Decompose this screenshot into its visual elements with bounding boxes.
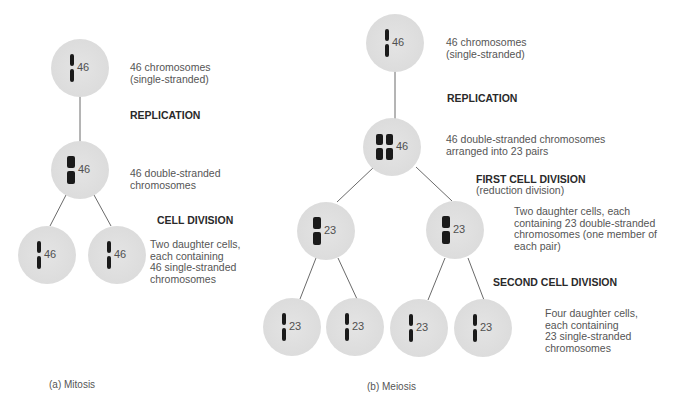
label-line: 46 double-stranded <box>130 168 221 180</box>
mitosis-replication-heading: REPLICATION <box>130 109 200 121</box>
label-line: (single-stranded) <box>130 74 211 86</box>
chromosome-pair-icon <box>375 134 395 160</box>
label-line: (single-stranded) <box>446 49 527 61</box>
chromosome-count: 46 <box>396 140 408 152</box>
label-line: Two daughter cells, each <box>514 206 657 218</box>
meiosis-first-division-line-right <box>416 167 452 201</box>
chromosome-count: 46 <box>392 36 404 48</box>
meiosis-second-division-heading: SECOND CELL DIVISION <box>493 276 617 288</box>
meiosis-paired-label: 46 double-stranded chromosomes arranged … <box>446 134 605 157</box>
label-line: chromosomes <box>150 274 240 286</box>
single-chromosome-icon <box>35 241 43 269</box>
meiosis-first-daughters-label: Two daughter cells, each containing 23 d… <box>514 206 657 252</box>
mitosis-parent-cell: 46 <box>51 39 109 97</box>
label-line: Two daughter cells, <box>150 239 240 251</box>
meiosis-second-division-line-4 <box>468 258 484 300</box>
label-line: chromosomes <box>545 343 638 355</box>
label-line: chromosomes (one member of <box>514 229 657 241</box>
meiosis-final-label: Four daughter cells, each containing 23 … <box>545 308 638 354</box>
label-line: chromosomes <box>130 180 221 192</box>
single-chromosome-icon <box>471 314 479 342</box>
meiosis-first-division-heading: FIRST CELL DIVISION (reduction division) <box>476 174 585 196</box>
mitosis-replicated-label: 46 double-stranded chromosomes <box>130 168 221 191</box>
chromosome-count: 23 <box>453 223 465 235</box>
single-chromosome-icon <box>280 313 288 341</box>
mitosis-daughter-cell-1: 46 <box>18 226 76 284</box>
mitosis-daughters-label: Two daughter cells, each containing 46 s… <box>150 239 240 285</box>
single-chromosome-icon <box>383 29 391 57</box>
heading-subtitle: (reduction division) <box>476 185 585 196</box>
double-chromosome-icon <box>312 217 322 245</box>
chromosome-count: 46 <box>44 248 56 260</box>
meiosis-second-division-line-2 <box>338 258 357 299</box>
mitosis-daughter-cell-2: 46 <box>88 226 146 284</box>
chromosome-count: 23 <box>289 320 301 332</box>
double-chromosome-icon <box>441 216 451 244</box>
mitosis-division-heading: CELL DIVISION <box>157 214 233 226</box>
meiosis-final-cell-3: 23 <box>390 299 448 357</box>
chromosome-count: 23 <box>480 321 492 333</box>
meiosis-first-daughter-2: 23 <box>426 201 484 259</box>
meiosis-first-division-line-left <box>337 167 374 202</box>
meiosis-paired-cell: 46 <box>363 118 421 176</box>
mitosis-caption: (a) Mitosis <box>49 379 95 390</box>
meiosis-final-cell-4: 23 <box>454 299 512 357</box>
chromosome-count: 46 <box>78 163 90 175</box>
single-chromosome-icon <box>105 241 113 269</box>
chromosome-count: 46 <box>77 61 89 73</box>
double-chromosome-icon <box>66 156 76 184</box>
meiosis-parent-cell: 46 <box>366 14 424 72</box>
label-line: 46 chromosomes <box>446 37 527 49</box>
label-line: 46 double-stranded chromosomes <box>446 134 605 146</box>
mitosis-start-label: 46 chromosomes (single-stranded) <box>130 62 211 85</box>
single-chromosome-icon <box>68 54 76 82</box>
mitosis-replicated-cell: 46 <box>51 141 109 199</box>
meiosis-replication-heading: REPLICATION <box>447 92 517 104</box>
meiosis-caption: (b) Meiosis <box>367 381 416 392</box>
single-chromosome-icon <box>343 313 351 341</box>
chromosome-count: 23 <box>416 321 428 333</box>
meiosis-second-division-line-1 <box>300 258 316 299</box>
single-chromosome-icon <box>407 314 415 342</box>
chromosome-count: 23 <box>324 224 336 236</box>
meiosis-first-daughter-1: 23 <box>297 202 355 260</box>
meiosis-second-division-line-3 <box>428 258 445 300</box>
chromosome-count: 23 <box>352 320 364 332</box>
mitosis-division-line-right <box>94 195 111 226</box>
mitosis-division-line-left <box>50 195 66 226</box>
label-line: 46 single-stranded <box>150 262 240 274</box>
meiosis-final-cell-1: 23 <box>263 298 321 356</box>
label-line: Four daughter cells, <box>545 308 638 320</box>
meiosis-start-label: 46 chromosomes (single-stranded) <box>446 37 527 60</box>
label-line: 46 chromosomes <box>130 62 211 74</box>
label-line: each pair) <box>514 241 657 253</box>
chromosome-count: 46 <box>114 248 126 260</box>
label-line: arranged into 23 pairs <box>446 146 605 158</box>
meiosis-final-cell-2: 23 <box>326 298 384 356</box>
label-line: 23 single-stranded <box>545 331 638 343</box>
